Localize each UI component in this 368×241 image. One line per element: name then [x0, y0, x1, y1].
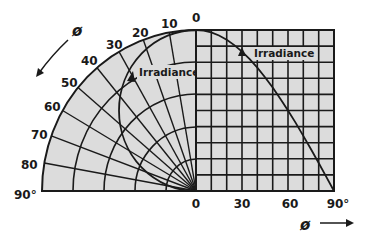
polar-plot: Irradiance 0 10 20 30 40 50 60 70 80 90°…: [14, 11, 200, 202]
polar-label-0: 0: [192, 11, 200, 25]
cartesian-curve-label: Irradiance: [254, 47, 314, 59]
curved-arrow-head-icon: [36, 68, 44, 77]
polar-label-80: 80: [21, 158, 38, 172]
cartesian-phi-symbol: ø: [299, 216, 311, 234]
right-arrow-head-icon: [346, 219, 354, 227]
polar-label-10: 10: [161, 17, 178, 31]
polar-label-60: 60: [44, 100, 61, 114]
polar-label-40: 40: [81, 54, 98, 68]
x-label-90: 90°: [327, 197, 350, 211]
x-label-0: 0: [192, 197, 200, 211]
cartesian-x-labels: 0 30 60 90°: [192, 197, 350, 211]
polar-label-70: 70: [31, 128, 48, 142]
irradiance-diagram: Irradiance 0 10 20 30 40 50 60 70 80 90°…: [0, 0, 368, 241]
polar-curve-label: Irradiance: [139, 66, 199, 78]
cartesian-plot: Irradiance 0 30 60 90° ø: [192, 30, 354, 234]
polar-label-50: 50: [61, 76, 78, 90]
curved-arrow-icon: [39, 40, 68, 73]
x-label-30: 30: [234, 197, 251, 211]
polar-label-20: 20: [132, 26, 149, 40]
x-label-60: 60: [282, 197, 299, 211]
polar-label-90: 90°: [14, 188, 37, 202]
polar-label-30: 30: [106, 38, 123, 52]
polar-phi-symbol: ø: [71, 22, 83, 40]
